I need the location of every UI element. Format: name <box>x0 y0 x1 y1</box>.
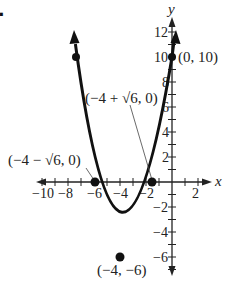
y-axis-up-arrow-icon <box>169 17 176 27</box>
y-tick-label: −4 <box>153 225 168 240</box>
curve-left-arrow-icon <box>70 30 80 44</box>
label-vertex: (−4, −6) <box>97 262 146 279</box>
parabola-graph: −10 −8 −6 −4 −2 2 12 10 8 6 4 2 −2 −4 −6… <box>0 0 231 282</box>
point-left-branch <box>72 53 80 61</box>
label-root-left: (−4 − √6, 0) <box>8 152 81 169</box>
point-root-right <box>148 178 157 187</box>
x-tick-label: −6 <box>87 186 102 201</box>
label-root-right: (−4 + √6, 0) <box>85 90 158 107</box>
y-tick-label: −2 <box>153 200 168 215</box>
x-tick-label: −10 <box>32 186 54 201</box>
y-axis-label: y <box>166 1 175 17</box>
point-vertex <box>116 253 125 262</box>
x-tick-label: 2 <box>192 186 199 201</box>
leader-line-right-root <box>130 105 152 180</box>
x-axis-label: x <box>214 173 222 189</box>
point-y-intercept <box>168 53 176 61</box>
y-tick-label: 10 <box>154 50 168 65</box>
x-tick-label: −4 <box>113 186 128 201</box>
x-axis-right-arrow-icon <box>202 179 212 186</box>
y-axis-down-arrow-icon <box>169 266 176 276</box>
x-axis-left-arrow-icon <box>36 179 46 186</box>
y-tick-label: 2 <box>162 150 169 165</box>
point-root-left <box>91 178 100 187</box>
y-tick-label: −6 <box>153 250 168 265</box>
x-tick-label: −8 <box>58 186 73 201</box>
y-tick-label: 12 <box>154 25 168 40</box>
label-y-intercept: (0, 10) <box>178 49 218 66</box>
y-tick-label: 4 <box>162 125 169 140</box>
